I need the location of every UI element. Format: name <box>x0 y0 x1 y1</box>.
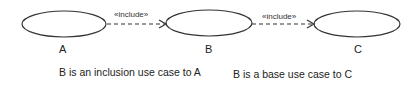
use-case-c-label: C <box>354 43 362 55</box>
use-case-b-ellipse <box>166 10 252 36</box>
caption-inclusion: B is an inclusion use case to A <box>59 66 201 78</box>
caption-base: B is a base use case to C <box>233 68 352 80</box>
stereotype-label-b-c: «include» <box>262 12 296 21</box>
stereotype-label-a-b: «include» <box>114 10 148 19</box>
use-case-a-label: A <box>59 43 66 55</box>
use-case-b-label: B <box>205 43 212 55</box>
use-case-a-ellipse <box>22 11 106 37</box>
include-arrow-a-to-b <box>107 20 166 28</box>
use-case-c-ellipse <box>314 11 400 37</box>
use-case-include-diagram: «include» «include» A B C B is an inclus… <box>0 0 419 89</box>
include-arrow-b-to-c <box>252 20 314 28</box>
